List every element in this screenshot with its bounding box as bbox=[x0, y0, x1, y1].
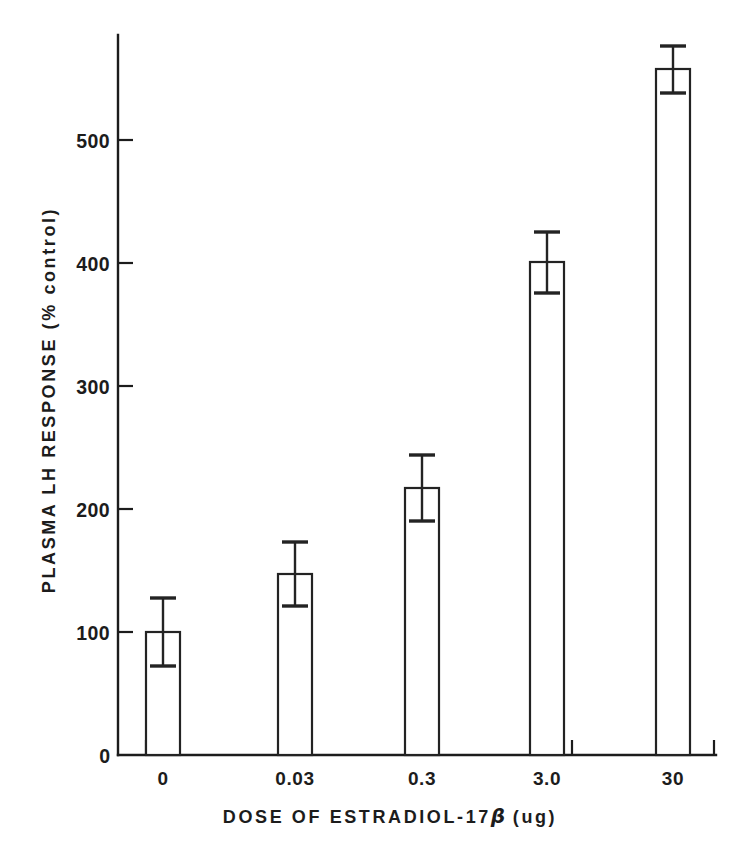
bar-3.0 bbox=[530, 262, 564, 755]
bar-30 bbox=[656, 69, 690, 755]
x-axis-title-after: (ug) bbox=[505, 807, 557, 827]
y-tick-marks bbox=[118, 140, 133, 632]
y-tick-label-200: 200 bbox=[76, 499, 110, 521]
x-tick-label-30: 30 bbox=[662, 768, 684, 789]
y-axis-title: PLASMA LH RESPONSE (% control) bbox=[39, 207, 59, 593]
bar-0.3 bbox=[405, 488, 439, 755]
x-tick-labels: 0 0.03 0.3 3.0 30 bbox=[157, 768, 684, 789]
y-tick-label-500: 500 bbox=[76, 130, 110, 152]
x-axis-title-before: DOSE OF ESTRADIOL-17 bbox=[223, 807, 491, 827]
x-tick-label-0: 0 bbox=[157, 768, 168, 789]
y-tick-label-100: 100 bbox=[76, 622, 110, 644]
bars-group bbox=[146, 69, 690, 755]
y-tick-label-0: 0 bbox=[99, 745, 110, 767]
x-axis-title-beta-symbol: β bbox=[490, 804, 505, 828]
y-tick-labels: 500 400 300 200 100 0 bbox=[76, 130, 110, 767]
x-axis-title: DOSE OF ESTRADIOL-17β (ug) bbox=[223, 804, 557, 828]
figure-container: 500 400 300 200 100 0 bbox=[0, 0, 736, 849]
y-tick-label-300: 300 bbox=[76, 376, 110, 398]
x-tick-label-0.03: 0.03 bbox=[275, 768, 314, 789]
x-tick-label-0.3: 0.3 bbox=[408, 768, 436, 789]
y-tick-label-400: 400 bbox=[76, 253, 110, 275]
x-tick-label-3.0: 3.0 bbox=[533, 768, 561, 789]
bar-chart: 500 400 300 200 100 0 bbox=[0, 0, 736, 849]
